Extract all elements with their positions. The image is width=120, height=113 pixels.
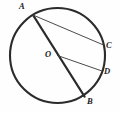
circle-geometry-figure: A C O D B xyxy=(0,0,120,113)
point-label-o: O xyxy=(45,50,51,59)
point-label-a: A xyxy=(19,2,25,11)
point-label-d: D xyxy=(104,67,110,76)
point-label-c: C xyxy=(106,41,112,50)
point-label-b: B xyxy=(87,97,93,106)
figure-canvas xyxy=(0,0,120,113)
